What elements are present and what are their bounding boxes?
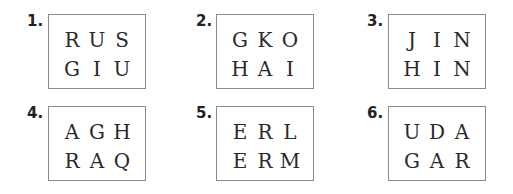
letter-box: G K O H A I	[216, 14, 314, 89]
letter-row-2: G I U	[49, 59, 145, 79]
letter: L	[278, 122, 303, 142]
letter: J	[400, 30, 425, 50]
letter-row-1: A G H	[49, 122, 145, 142]
letter: G	[60, 59, 85, 79]
puzzle-number: 1.	[27, 14, 43, 29]
letter: I	[425, 59, 450, 79]
letter: D	[425, 122, 450, 142]
puzzle-number: 4.	[27, 106, 43, 121]
puzzle-number: 5.	[196, 106, 212, 121]
letter: R	[253, 151, 278, 171]
letter: E	[228, 122, 253, 142]
letter: H	[400, 59, 425, 79]
letter: I	[425, 30, 450, 50]
letter-row-2: H A I	[217, 59, 313, 79]
letter-box: A G H R A Q	[48, 106, 146, 181]
letter: R	[60, 151, 85, 171]
letter: U	[85, 30, 110, 50]
letter: K	[253, 30, 278, 50]
letter: U	[400, 122, 425, 142]
letter: I	[85, 59, 110, 79]
letter: I	[278, 59, 303, 79]
letter: A	[425, 151, 450, 171]
letter: A	[450, 122, 475, 142]
puzzle-number: 3.	[367, 14, 383, 29]
puzzle-number: 6.	[367, 106, 383, 121]
letter-row-2: R A Q	[49, 151, 145, 171]
letter: N	[450, 30, 475, 50]
letter-box: E R L E R M	[216, 106, 314, 181]
letter: A	[253, 59, 278, 79]
letter: R	[253, 122, 278, 142]
letter-box: R U S G I U	[48, 14, 146, 89]
letter-row-1: G K O	[217, 30, 313, 50]
letter: A	[85, 151, 110, 171]
letter: S	[110, 30, 135, 50]
letter: H	[228, 59, 253, 79]
letter-row-1: R U S	[49, 30, 145, 50]
letter: G	[400, 151, 425, 171]
letter-row-1: E R L	[217, 122, 313, 142]
letter-box: U D A G A R	[388, 106, 486, 181]
letter: G	[228, 30, 253, 50]
letter: U	[110, 59, 135, 79]
letter-row-1: U D A	[389, 122, 485, 142]
letter: M	[278, 151, 303, 171]
letter-row-2: E R M	[217, 151, 313, 171]
letter-row-2: H I N	[389, 59, 485, 79]
letter: G	[85, 122, 110, 142]
letter: N	[450, 59, 475, 79]
letter-row-1: J I N	[389, 30, 485, 50]
letter: O	[278, 30, 303, 50]
letter-box: J I N H I N	[388, 14, 486, 89]
letter: R	[60, 30, 85, 50]
letter: R	[450, 151, 475, 171]
letter: E	[228, 151, 253, 171]
letter: A	[60, 122, 85, 142]
puzzle-number: 2.	[196, 14, 212, 29]
letter-row-2: G A R	[389, 151, 485, 171]
letter: Q	[110, 151, 135, 171]
letter: H	[110, 122, 135, 142]
